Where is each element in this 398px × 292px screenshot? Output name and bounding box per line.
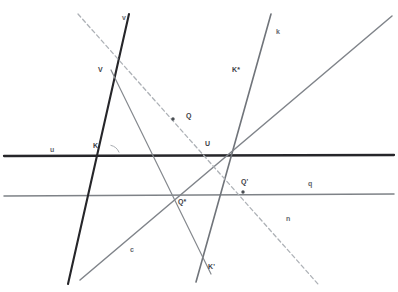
geometry-diagram: u q v k c n V Q K U Q* Q' K* K': [0, 0, 398, 292]
point-label-Q-prime: Q': [241, 178, 248, 185]
point-label-V: V: [98, 66, 103, 73]
line-label-k: k: [276, 28, 280, 35]
line-label-v: v: [122, 14, 126, 21]
point-label-K-prime: K': [208, 263, 215, 270]
point-label-Q: Q: [186, 112, 192, 119]
point-label-U: U: [205, 140, 210, 147]
geometry-canvas: [0, 0, 398, 292]
point-marker-Q: [171, 117, 174, 120]
line-label-u: u: [50, 146, 54, 153]
point-label-Q-star: Q*: [178, 198, 186, 205]
point-label-K-star: K*: [232, 66, 240, 73]
line-label-c: c: [130, 246, 134, 253]
line-u: [4, 155, 394, 156]
line-label-n: n: [286, 215, 290, 222]
point-label-K: K: [93, 142, 98, 149]
point-marker-Q: [241, 190, 244, 193]
line-label-q: q: [308, 180, 312, 187]
